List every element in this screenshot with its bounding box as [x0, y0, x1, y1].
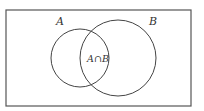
intersection-label: A∩B: [86, 53, 109, 64]
venn-diagram: A B A∩B: [0, 0, 204, 111]
set-b-label: B: [148, 15, 157, 28]
set-a-label: A: [55, 15, 64, 28]
